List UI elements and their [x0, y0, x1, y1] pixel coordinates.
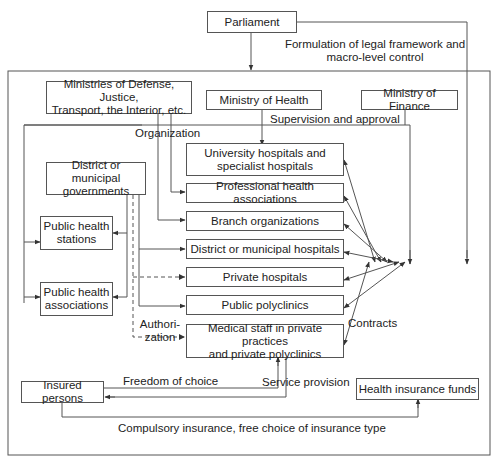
node-public-polyclinics: Public polyclinics: [186, 295, 344, 315]
node-health-insurance-funds: Health insurance funds: [356, 378, 479, 400]
node-public-health-associations: Public health associations: [40, 282, 113, 316]
label-authorization: Authori- zation: [139, 318, 181, 344]
label-organization: Organization: [135, 127, 200, 140]
node-professional-associations: Professional health associations: [186, 183, 344, 203]
label-legal-framework: Formulation of legal framework and macro…: [270, 38, 480, 64]
label-service-provision: Service provision: [262, 376, 350, 389]
node-insured-persons: Insured persons: [21, 381, 104, 403]
node-public-health-stations: Public health stations: [40, 216, 113, 250]
node-district-hospitals: District or municipal hospitals: [186, 239, 344, 259]
node-university-hospitals: University hospitals and specialist hosp…: [186, 143, 344, 176]
label-contracts: Contracts: [348, 317, 397, 330]
node-medical-staff: Medical staff in private practices and p…: [186, 324, 344, 358]
node-branch-organizations: Branch organizations: [186, 211, 344, 231]
node-ministry-of-finance: Ministry of Finance: [361, 90, 458, 110]
label-freedom-of-choice: Freedom of choice: [123, 375, 218, 388]
node-private-hospitals: Private hospitals: [186, 267, 344, 287]
node-district-governments: District or municipal governments: [46, 162, 146, 195]
label-supervision: Supervision and approval: [270, 113, 400, 126]
node-ministry-of-health: Ministry of Health: [206, 90, 322, 110]
label-compulsory-insurance: Compulsory insurance, free choice of ins…: [118, 422, 386, 435]
node-other-ministries: Ministries of Defense, Justice, Transpor…: [46, 81, 192, 114]
node-parliament: Parliament: [207, 11, 297, 33]
